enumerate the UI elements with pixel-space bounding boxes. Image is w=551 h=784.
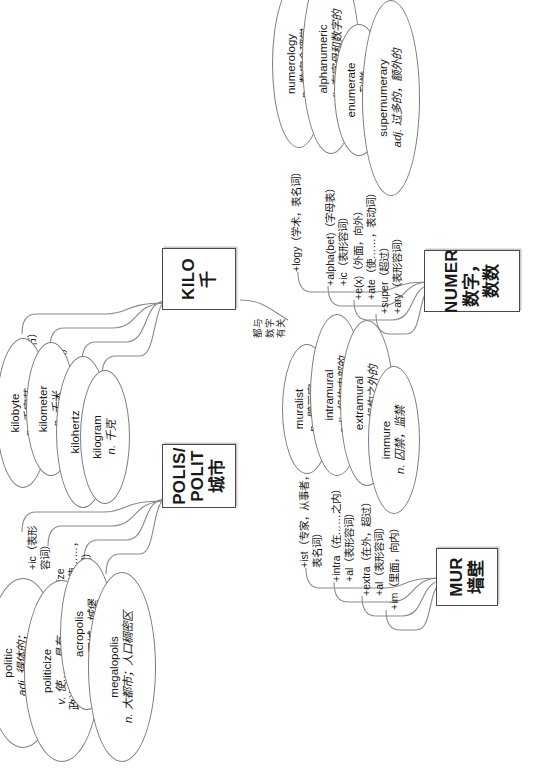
root-box-polis-en-line1: POLIS/ [171,447,189,505]
root-box-kilo-cn: 千 [199,271,219,288]
bubble-megalopolis-word: megalopolis [108,636,122,697]
root-box-numer[interactable]: NUMER 数字，数数 [424,250,520,312]
bubble-supernumerary-def1: adj. 过多的，额外的 [391,49,405,148]
bubble-megalopolis[interactable]: megalopolis n. 大都市；人口稠密区 [88,572,156,762]
bubble-kilobyte-word: kilobyte [9,394,23,433]
affix-numer-0: +logy（学术，表名词） [290,142,303,272]
bubble-kilogram-word: kilogram [91,415,105,458]
bubble-kilogram-def1: n. 千克 [105,420,119,455]
root-box-polis[interactable]: POLIS/ POLIT 城市 [162,444,236,508]
bubble-politic-word: politic [2,648,16,677]
bubble-acropolis-word: acropolis [73,611,87,657]
affix-mur-3: +im（里面，向内） [388,506,401,610]
connector-lines-kilo [0,0,290,400]
bubble-supernumerary-word: supernumerary [377,59,391,136]
bubble-immure-word: immure [380,421,394,459]
affix-polis-0: +ic（表形 容词） [26,512,52,570]
affix-numer-3: +super（超过） +ary（表形容词） [378,194,404,314]
root-box-polis-cn: 城市 [208,459,228,493]
root-box-polis-en-line2: POLIT [189,450,207,502]
root-box-mur[interactable]: MUR 墙壁 [436,548,498,606]
bubble-enumerate-word: enumerate [345,63,359,118]
bubble-politicize-word: politicize [41,649,55,693]
root-box-numer-cn: 数字，数数 [462,251,501,311]
bubble-kilometer-word: kilometer [37,386,51,433]
root-box-kilo-en: KILO [180,258,198,300]
root-box-mur-cn: 墙壁 [467,560,487,594]
root-box-mur-en: MUR [448,557,466,597]
bubble-kilogram[interactable]: kilogram n. 千克 [80,370,130,504]
root-box-numer-en: NUMER [443,249,461,313]
bubble-immure-def1: n. 囚禁，监禁 [394,406,408,474]
bubble-megalopolis-def1: n. 大都市；人口稠密区 [122,611,136,723]
root-box-kilo[interactable]: KILO 千 [162,248,236,310]
affix-mur-1: +intra（在……之内） +al（表形容词） [330,462,356,582]
bubble-alphanumeric-word: alphanumeric [317,24,331,93]
bubble-supernumerary[interactable]: supernumerary adj. 过多的，额外的 [362,0,420,196]
bubble-numerology-word: numerology [285,34,299,94]
affix-numer-1: +alpha(bet)（字母表） +ic（表形容词） [324,146,350,286]
mindmap-canvas: POLIS/ POLIT 城市 +ic（表形 容词） +ize（使……， 表动词… [0,0,551,784]
